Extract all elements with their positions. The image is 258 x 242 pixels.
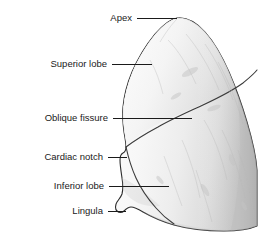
- label-cardiac-notch: Cardiac notch: [44, 151, 103, 162]
- lung-anatomy-figure: Apex Superior lobe Oblique fissure Cardi…: [0, 0, 258, 242]
- label-inferior-lobe: Inferior lobe: [54, 180, 104, 191]
- label-oblique-fissure: Oblique fissure: [45, 112, 108, 123]
- label-group: Apex Superior lobe Oblique fissure Cardi…: [44, 12, 132, 216]
- label-superior-lobe: Superior lobe: [50, 58, 107, 69]
- lung-diagram-svg: Apex Superior lobe Oblique fissure Cardi…: [0, 0, 258, 242]
- label-apex: Apex: [110, 12, 132, 23]
- label-lingula: Lingula: [72, 205, 103, 216]
- posterior-shading: [196, 0, 258, 242]
